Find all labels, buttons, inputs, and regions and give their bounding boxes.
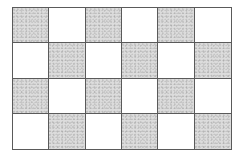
shaded-cell-r2-c4	[158, 79, 194, 114]
shaded-cell-r1-c3	[122, 43, 158, 78]
white-cell-r1-c4	[158, 43, 194, 78]
white-cell-r3-c2	[86, 114, 122, 149]
white-cell-r0-c1	[49, 8, 85, 43]
white-cell-r2-c1	[49, 79, 85, 114]
shaded-cell-r1-c5	[195, 43, 231, 78]
white-cell-r1-c0	[13, 43, 49, 78]
shaded-cell-r3-c5	[195, 114, 231, 149]
white-cell-r3-c0	[13, 114, 49, 149]
white-cell-r3-c4	[158, 114, 194, 149]
white-cell-r2-c3	[122, 79, 158, 114]
white-cell-r0-c5	[195, 8, 231, 43]
shaded-cell-r2-c0	[13, 79, 49, 114]
shaded-cell-r3-c3	[122, 114, 158, 149]
shaded-cell-r3-c1	[49, 114, 85, 149]
shaded-cell-r0-c4	[158, 8, 194, 43]
shaded-cell-r1-c1	[49, 43, 85, 78]
shaded-cell-r2-c2	[86, 79, 122, 114]
white-cell-r2-c5	[195, 79, 231, 114]
shaded-cell-r0-c2	[86, 8, 122, 43]
white-cell-r1-c2	[86, 43, 122, 78]
checkerboard-grid	[12, 7, 232, 150]
white-cell-r0-c3	[122, 8, 158, 43]
shaded-cell-r0-c0	[13, 8, 49, 43]
